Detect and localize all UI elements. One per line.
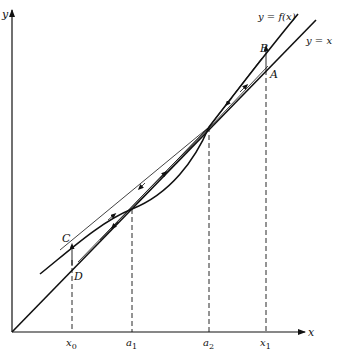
point-b-label: B bbox=[259, 42, 268, 55]
cobweb-diagram: y x B A C D y = f(x) y = x x0 a1 a2 x1 bbox=[0, 0, 338, 354]
point-c-label: C bbox=[62, 232, 71, 245]
identity-line bbox=[12, 20, 316, 332]
tick-a1: a1 bbox=[126, 337, 137, 351]
point-d-label: D bbox=[73, 270, 83, 283]
iteration-lines bbox=[60, 58, 268, 262]
y-axis-label: y bbox=[1, 8, 9, 21]
tick-x1: x1 bbox=[260, 337, 271, 351]
tick-a2: a2 bbox=[203, 337, 214, 351]
f-curve-label: y = f(x) bbox=[257, 11, 296, 22]
identity-line-label: y = x bbox=[305, 35, 332, 46]
point-a-label: A bbox=[269, 68, 278, 81]
tick-x0: x0 bbox=[66, 337, 77, 351]
x-axis-label: x bbox=[308, 326, 315, 339]
